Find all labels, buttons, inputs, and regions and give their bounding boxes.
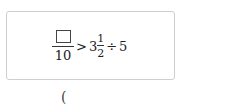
divisor: 5 [119, 39, 127, 54]
denominator: 10 [55, 47, 72, 62]
blank-numerator-box[interactable] [56, 30, 71, 43]
mixed-numerator: 1 [97, 33, 104, 45]
mixed-whole: 3 [89, 39, 97, 54]
inequality-expression: 10 > 3 1 2 ÷ 5 [52, 24, 127, 68]
mixed-fraction: 1 2 [97, 33, 104, 59]
mixed-denominator: 2 [97, 46, 104, 59]
greater-than-sign: > [76, 39, 87, 54]
answer-parenthesis: ( [61, 89, 66, 105]
division-sign: ÷ [106, 39, 117, 54]
fraction-with-blank: 10 [52, 30, 74, 62]
